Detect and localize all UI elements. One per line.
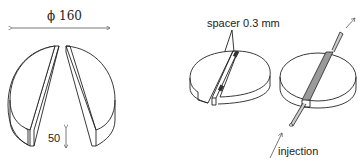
diameter-label: ϕ 160 — [47, 9, 82, 23]
right-half-disk — [66, 46, 115, 146]
outlet-arrow — [346, 18, 355, 28]
thickness-label: 50 — [48, 132, 60, 144]
inlet-tube — [290, 103, 306, 126]
mold-diagram: ϕ 160 50 spacer 0.3 mm — [0, 0, 362, 165]
left-half-disk — [8, 46, 59, 146]
right-panel-injection-disk: injection — [270, 18, 356, 158]
injection-label: injection — [278, 145, 318, 157]
spacer-label: spacer 0.3 mm — [207, 17, 280, 29]
left-panel-split-disk: ϕ 160 50 — [8, 9, 115, 148]
spacer-pointer-line — [232, 30, 234, 52]
outlet-tube — [332, 32, 343, 52]
middle-panel-spacer-disk: spacer 0.3 mm — [190, 17, 280, 105]
